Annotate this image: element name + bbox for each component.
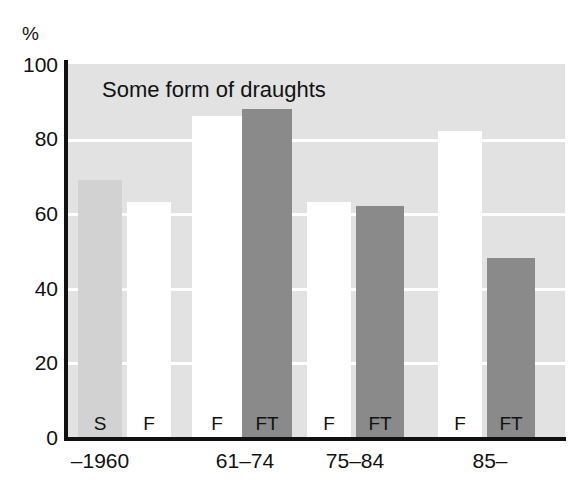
bar-label-7584-f: F (307, 414, 351, 433)
bar-1960-s: S (78, 180, 122, 437)
y-tick-100: 100 (4, 54, 58, 75)
bar-label-7584-ft: FT (356, 414, 404, 433)
bar-1960-f: F (127, 202, 171, 437)
bar-label-85-ft: FT (487, 414, 535, 433)
bar-label-6174-ft: FT (242, 414, 292, 433)
bar-6174-ft: FT (242, 109, 292, 437)
bar-6174-f: F (192, 116, 242, 437)
x-category-85: 85– (425, 450, 555, 471)
bar-85-f: F (438, 131, 482, 437)
bar-7584-f: F (307, 202, 351, 437)
y-tick-0: 0 (4, 427, 58, 448)
bar-chart-figure: % 100 80 60 40 20 0 Some form of draught… (0, 0, 584, 495)
y-tick-20: 20 (4, 352, 58, 373)
bar-7584-ft: FT (356, 206, 404, 437)
y-tick-60: 60 (4, 203, 58, 224)
chart-title: Some form of draughts (102, 79, 326, 101)
plot-area: Some form of draughts S F F FT F FT F FT (68, 64, 565, 437)
x-category-1960: –1960 (35, 450, 165, 471)
bar-label-1960-s: S (78, 414, 122, 433)
y-tick-40: 40 (4, 278, 58, 299)
bar-label-85-f: F (438, 414, 482, 433)
bar-85-ft: FT (487, 258, 535, 437)
gridline-80 (68, 139, 565, 142)
y-axis-tick-labels: 100 80 60 40 20 0 (0, 0, 58, 495)
bar-label-1960-f: F (127, 414, 171, 433)
y-tick-80: 80 (4, 128, 58, 149)
bar-label-6174-f: F (192, 414, 242, 433)
x-category-7584: 75–84 (290, 450, 420, 471)
x-axis-line (64, 437, 566, 441)
